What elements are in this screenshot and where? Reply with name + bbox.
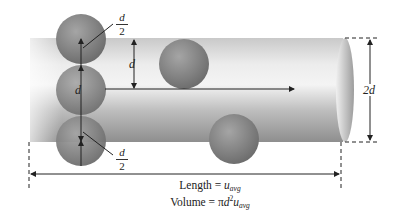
label-d-center: d xyxy=(75,84,81,96)
diagram-canvas: d 2 d d d 2 2d Length = uavg Volume = πd… xyxy=(0,0,401,217)
sphere-right-upper xyxy=(159,39,209,89)
caption-volume: Volume = πd2uavg xyxy=(140,194,280,210)
label-d-half-top: d 2 xyxy=(116,12,128,37)
label-d-half-bottom: d 2 xyxy=(116,147,128,172)
sphere-right-lower xyxy=(209,114,259,164)
label-d-spacing: d xyxy=(129,58,135,70)
label-diameter: 2d xyxy=(363,84,375,96)
caption-length: Length = uavg xyxy=(140,179,280,193)
